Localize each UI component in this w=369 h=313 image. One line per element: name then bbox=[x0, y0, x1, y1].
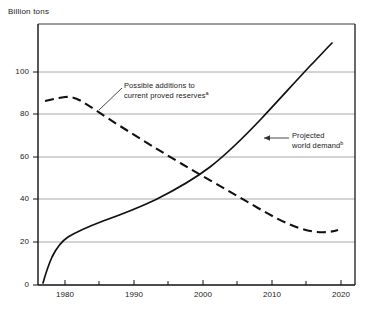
demand-leader-line bbox=[264, 135, 289, 141]
demand-annotation: Projected world demandb bbox=[292, 131, 343, 152]
reserves-annotation-line2: current proved reserves bbox=[124, 91, 206, 100]
y-tick-label-60: 60 bbox=[3, 152, 29, 161]
reserves-annotation-line1: Possible additions to bbox=[124, 81, 195, 90]
demand-annotation-superscript: b bbox=[340, 140, 343, 146]
y-tick-label-0: 0 bbox=[3, 280, 29, 289]
demand-annotation-line1: Projected bbox=[292, 131, 325, 140]
reserves-leader-line bbox=[99, 88, 122, 110]
reserves-annotation: Possible additions to current proved res… bbox=[124, 81, 209, 102]
y-tick-label-20: 20 bbox=[3, 237, 29, 246]
demand-annotation-line2: world demand bbox=[292, 141, 340, 150]
line-chart-canvas bbox=[0, 0, 369, 313]
x-tick-label-1980: 1980 bbox=[48, 290, 82, 299]
leader-arrowhead-icon bbox=[264, 135, 270, 141]
x-tick-label-2010: 2010 bbox=[255, 290, 289, 299]
y-tick-label-100: 100 bbox=[3, 67, 29, 76]
chart-figure: Billion tons bbox=[0, 0, 369, 313]
x-axis-ticks bbox=[65, 280, 341, 285]
x-tick-label-2020: 2020 bbox=[324, 290, 358, 299]
plot-frame bbox=[38, 24, 355, 285]
x-tick-label-2000: 2000 bbox=[186, 290, 220, 299]
leader-line-reserves bbox=[99, 88, 122, 110]
series-line-reserves bbox=[45, 97, 338, 232]
series-line-demand bbox=[43, 43, 332, 283]
y-axis-ticks bbox=[33, 72, 38, 285]
y-tick-label-40: 40 bbox=[3, 194, 29, 203]
x-tick-label-1990: 1990 bbox=[117, 290, 151, 299]
reserves-annotation-superscript: a bbox=[206, 90, 209, 96]
y-tick-label-80: 80 bbox=[3, 109, 29, 118]
